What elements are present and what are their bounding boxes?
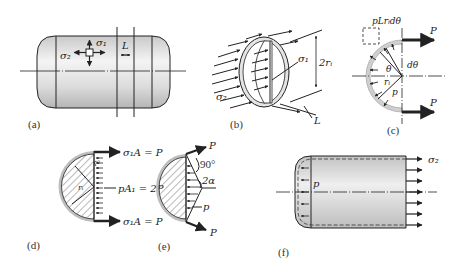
element-box	[363, 28, 379, 44]
stress-element	[86, 49, 93, 56]
caption-e: (e)	[158, 240, 171, 253]
right-angle-arc	[196, 158, 199, 172]
axial-stress-arrows-f	[406, 159, 422, 225]
label-bottom-eq: σ₁A = P	[123, 216, 163, 227]
force-arrow-top-e	[186, 147, 206, 154]
caption-d: (d)	[27, 239, 40, 252]
label-ri-c: rᵢ	[384, 77, 390, 87]
caption-c: (c)	[387, 124, 400, 137]
label-P-bottom-c: P	[429, 97, 437, 108]
label-top-eq: σ₁A = P	[123, 147, 163, 158]
label-length: L	[121, 40, 129, 51]
caption-b: (b)	[230, 118, 243, 131]
label-P-bottom-e: P	[209, 227, 217, 238]
dim-ext-top	[290, 30, 322, 42]
label-dtheta: dθ	[407, 60, 419, 70]
panel-a: σ₁ σ₂ L (a)	[20, 27, 186, 131]
label-90deg: 90°	[200, 158, 215, 170]
panel-e: P P 90° 2α p (e)	[156, 140, 217, 253]
label-ri-d: rᵢ	[78, 183, 84, 192]
label-P-top-e: P	[208, 140, 216, 151]
label-length-b: L	[313, 115, 321, 126]
label-sigma2: σ₂	[60, 50, 71, 61]
panel-d: r₀ rᵢ σ₁A = P pA₁ = 2P σ₁A = P (d)	[27, 147, 164, 252]
label-2ri: 2rᵢ	[318, 57, 332, 68]
label-element-force: pLrᵢdθ	[372, 16, 402, 26]
label-sigma2-f: σ₂	[428, 154, 439, 165]
label-theta: θ	[386, 64, 392, 74]
panel-f: σ₂ p (f)	[276, 154, 439, 259]
label-sigma1-b: σ₁	[298, 53, 309, 64]
label-P-top-c: P	[429, 25, 437, 36]
label-p-f: p	[313, 178, 320, 189]
label-2alpha: 2α	[201, 175, 215, 186]
thin-walled-pressure-vessel-figure: σ₁ σ₂ L (a)	[0, 0, 458, 272]
panel-b: σ₁ 2rᵢ σ₂ L (b)	[212, 30, 332, 131]
caption-a: (a)	[28, 118, 41, 131]
label-p-e: p	[203, 201, 210, 212]
panel-c: pLrᵢdθ P P θ dθ rᵢ p (c)	[352, 16, 445, 137]
pressure-arrows-e	[187, 166, 201, 208]
length-ext	[280, 104, 316, 115]
force-arrow-bottom-e	[186, 222, 206, 230]
label-p-c: p	[392, 87, 398, 97]
label-sigma1: σ₁	[96, 37, 107, 48]
caption-f: (f)	[278, 246, 289, 259]
label-sigma2-b: σ₂	[216, 91, 227, 102]
dim-ext-bottom	[290, 90, 322, 102]
